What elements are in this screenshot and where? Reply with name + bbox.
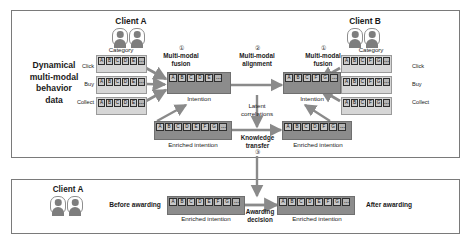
step-1-left-line-1: Multi-modal: [150, 52, 212, 60]
step-1-right-number: ①: [294, 45, 352, 52]
category-token: ⋯: [383, 99, 390, 107]
category-token: F: [324, 198, 332, 206]
category-token: A: [284, 123, 292, 131]
category-token: E: [130, 57, 137, 65]
behavior-label-click-right: Click: [412, 63, 442, 69]
step-2-label: Multi-modal alignment: [230, 52, 284, 67]
enriched-intention-block-right: ABCDFG⋯: [282, 121, 352, 140]
category-block-collect-left: ABCDE⋯: [96, 97, 147, 115]
category-token: E: [205, 198, 213, 206]
enriched-intention-label-right: Enriched intention: [277, 142, 359, 149]
behavior-label-collect-right: Collect: [412, 99, 446, 105]
category-token: A: [98, 78, 105, 86]
category-token: E: [315, 198, 323, 206]
category-token: A: [279, 198, 287, 206]
behavior-label-collect-left: Collect: [60, 99, 94, 105]
client-a-title-top: Client A: [96, 17, 166, 26]
person-icon: [50, 196, 66, 214]
category-token: A: [343, 78, 350, 86]
token-row: ABCFG⋯: [284, 73, 340, 82]
category-block-buy-right: ABCFG⋯: [341, 76, 392, 94]
category-token: A: [285, 74, 293, 82]
category-token: G: [333, 198, 341, 206]
category-token: F: [312, 74, 320, 82]
category-token: G: [321, 74, 329, 82]
category-token: G: [375, 57, 382, 65]
step-1-left-line-2: fusion: [150, 60, 212, 68]
category-token: B: [165, 123, 173, 131]
category-token: B: [178, 74, 186, 82]
token-row: ABCDEFG⋯: [168, 197, 244, 206]
category-token: A: [98, 99, 105, 107]
step-1-left-number: ①: [152, 45, 210, 52]
step-2-line-2: alignment: [230, 60, 284, 68]
after-awarding-label: After awarding: [358, 201, 420, 208]
category-token: E: [205, 74, 213, 82]
category-token: B: [106, 99, 113, 107]
category-token: ⋯: [214, 74, 222, 82]
category-token: F: [367, 78, 374, 86]
category-token: B: [106, 57, 113, 65]
step-3-line-1: Knowledge: [231, 134, 284, 142]
category-token: F: [367, 99, 374, 107]
category-token: F: [201, 123, 209, 131]
category-token: ⋯: [219, 123, 227, 131]
category-token: B: [351, 78, 358, 86]
category-token: ⋯: [338, 123, 346, 131]
client-b-title: Client B: [330, 17, 400, 26]
token-row: ABCDE⋯: [97, 98, 146, 107]
person-icon: [364, 28, 380, 46]
person-icon: [112, 28, 128, 46]
category-token: B: [351, 99, 358, 107]
client-b-avatars: [347, 28, 380, 46]
category-token: E: [130, 99, 137, 107]
category-token: D: [122, 78, 129, 86]
category-token: A: [98, 57, 105, 65]
category-token: C: [297, 198, 305, 206]
step-1-right-label: Multi-modal fusion: [292, 52, 354, 67]
step-2-number: ②: [232, 45, 282, 52]
category-token: G: [223, 198, 231, 206]
intention-label-right: Intention: [283, 96, 341, 103]
intention-label-left: Intention: [167, 96, 231, 103]
person-icon: [67, 196, 83, 214]
category-token: D: [122, 99, 129, 107]
step-2-line-1: Multi-modal: [230, 52, 284, 60]
category-token: C: [303, 74, 311, 82]
category-token: ⋯: [383, 78, 390, 86]
category-token: D: [122, 57, 129, 65]
token-row: ABCDE⋯: [168, 73, 230, 82]
client-a-avatars-top: [112, 28, 145, 46]
category-token: G: [210, 123, 218, 131]
category-token: ⋯: [330, 74, 338, 82]
category-block-click-left: ABCDE⋯: [96, 55, 147, 73]
step-1-right-line-1: Multi-modal: [292, 52, 354, 60]
category-token: F: [367, 57, 374, 65]
category-token: F: [214, 198, 222, 206]
token-row: ABCDE⋯: [97, 77, 146, 86]
intention-block-right: ABCFG⋯: [283, 72, 341, 94]
category-token: ⋯: [383, 57, 390, 65]
token-row: ABCDE⋯: [97, 56, 146, 65]
category-token: C: [174, 123, 182, 131]
person-icon: [129, 28, 145, 46]
category-token: C: [359, 99, 366, 107]
intention-block-left: ABCDE⋯: [167, 72, 231, 94]
category-token: B: [288, 198, 296, 206]
category-token: A: [156, 123, 164, 131]
client-a-avatars-bottom: [50, 196, 83, 214]
category-token: B: [294, 74, 302, 82]
category-token: C: [359, 57, 366, 65]
before-awarding-label: Before awarding: [104, 201, 166, 208]
category-token: C: [187, 198, 195, 206]
behavior-label-buy-left: Buy: [66, 81, 94, 87]
category-label-left: Category: [96, 47, 146, 54]
category-token: B: [178, 198, 186, 206]
token-row: ABCFG⋯: [342, 98, 391, 107]
category-token: ⋯: [232, 198, 240, 206]
category-token: D: [196, 198, 204, 206]
category-token: C: [114, 99, 121, 107]
token-row: ABCFG⋯: [342, 77, 391, 86]
enriched-intention-block-left: ABCDEFG⋯: [154, 121, 232, 140]
category-block-collect-right: ABCFG⋯: [341, 97, 392, 115]
